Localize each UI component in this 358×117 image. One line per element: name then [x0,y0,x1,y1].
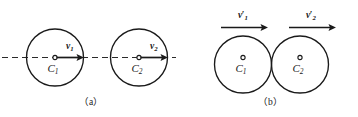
center-label-c2: C2 [132,63,143,76]
caption-panel-a: （a） [79,98,103,108]
velocity-arrow-v1-prime [221,24,268,31]
center-label-c2-after-subscript: 2 [300,67,304,76]
velocity-label-v1: v1 [66,42,74,53]
velocity-label-v2-prime-subscript: 2 [312,14,315,21]
center-label-c1-after-symbol: C [236,62,243,74]
caption-panel-b: （b） [258,98,283,108]
center-label-c1-symbol: C [48,62,55,74]
center-marker-c1-after [241,55,245,59]
velocity-label-v2-prime: v′2 [306,11,316,22]
center-marker-c1 [53,55,57,59]
velocity-label-v1-prime-subscript: 1 [244,14,247,21]
center-label-c2-symbol: C [132,62,139,74]
center-label-c2-after: C2 [293,63,304,76]
physics-collision-figure: v1 v2 C1 C2 （a） v′1 v′2 C1 C2 （b） [0,0,358,117]
center-label-c1: C1 [48,63,59,76]
center-label-c1-subscript: 1 [55,67,59,76]
center-label-c1-after-subscript: 1 [243,67,247,76]
velocity-label-v1-subscript: 1 [70,45,73,52]
center-marker-c2-after [298,55,302,59]
panel-a [2,29,176,86]
velocity-label-v1-prime: v′1 [238,11,248,22]
center-marker-c2 [137,55,141,59]
center-label-c2-after-symbol: C [293,62,300,74]
center-label-c1-after: C1 [236,63,247,76]
velocity-arrow-v2-prime [289,24,336,31]
velocity-label-v2-subscript: 2 [154,45,157,52]
figure-canvas [0,0,358,117]
panel-b [215,24,337,93]
center-label-c2-subscript: 2 [139,67,143,76]
velocity-label-v2: v2 [150,42,158,53]
